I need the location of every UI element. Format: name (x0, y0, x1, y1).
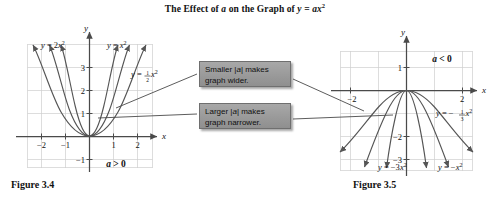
callout-larger-a: Larger |a| makes graph narrower. (199, 103, 291, 129)
y-axis-label-right: y (400, 27, 405, 37)
leader-smaller-to-left (116, 74, 197, 108)
curve-y-neg-3x2-right-branch (407, 91, 427, 169)
figure-panel: The Effect of a on the Graph of y = ax2 (0, 0, 490, 198)
svg-text:2: 2 (81, 86, 85, 96)
svg-text:2: 2 (135, 140, 139, 150)
y-axis-label-left: y (83, 23, 88, 33)
x-axis-label-left: x (161, 131, 166, 141)
svg-text:2: 2 (460, 94, 464, 104)
svg-text:−2: −2 (393, 132, 402, 142)
region-label-a-positive: a > 0 (106, 159, 126, 169)
fraction-one-third-right: 1 3 (459, 109, 465, 123)
svg-text:−2: −2 (347, 94, 356, 104)
leader-larger-to-right (293, 115, 393, 119)
curve-label-y-2x2: y = 2x2 (40, 40, 65, 50)
svg-text:−2: −2 (37, 140, 46, 150)
callout-smaller-line1-pre: Smaller | (205, 65, 236, 74)
leader-larger-to-left (98, 114, 197, 118)
svg-text:2: 2 (146, 77, 149, 83)
figure-caption-left: Figure 3.4 (11, 179, 54, 190)
curve-y-neg-x2-right-branch (407, 91, 449, 168)
svg-text:−1: −1 (76, 155, 85, 165)
svg-text:1: 1 (81, 109, 85, 119)
curve-label-y-half-x2: y = (130, 69, 142, 79)
curve-label-half-x2-suffix: x2 (150, 69, 158, 79)
x-axis-label-right: x (481, 85, 486, 95)
curve-label-y-neg-third-x2: y = − (435, 108, 454, 118)
callout-smaller-a: Smaller |a| makes graph wider. (199, 61, 291, 87)
curve-label-y-neg-x2: y = −x2 (437, 162, 462, 172)
svg-text:3: 3 (461, 116, 464, 122)
x-tick-labels-left: −2 −1 1 2 (37, 140, 140, 150)
callout-larger-line2: graph narrower. (205, 118, 285, 129)
region-label-a-negative: a < 0 (432, 54, 452, 64)
callout-larger-line1-pre: Larger | (205, 107, 232, 116)
callout-smaller-line2: graph wider. (205, 76, 285, 87)
svg-text:−1: −1 (61, 140, 70, 150)
curve-label-neg-third-suffix: x2 (465, 108, 473, 118)
svg-text:1: 1 (146, 70, 149, 76)
figures-canvas: x y −2 −1 1 2 3 2 1 −1 y = 2x2 (0, 0, 490, 198)
svg-text:3: 3 (81, 63, 85, 73)
figure-3-5-graph: x y −2 2 1 −2 −3 a < 0 y = − (331, 27, 486, 176)
svg-text:1: 1 (461, 109, 464, 115)
callout-smaller-line1-post: | makes (241, 65, 269, 74)
figure-caption-right: Figure 3.5 (353, 179, 396, 190)
svg-text:1: 1 (398, 63, 402, 73)
figure-3-4-graph: x y −2 −1 1 2 3 2 1 −1 y = 2x2 (16, 23, 166, 172)
curve-label-y-x2: y = x2 (106, 40, 127, 50)
callout-larger-line1-post: | makes (237, 107, 265, 116)
fraction-one-half-left: 1 2 (145, 70, 151, 84)
x-tick-labels-right: −2 2 (347, 94, 464, 104)
curve-label-y-neg-3x2: y = −3x2 (377, 162, 407, 172)
curve-labels-left: y = 2x2 y = x2 y = 1 2 x2 (40, 40, 158, 83)
svg-text:1: 1 (111, 140, 115, 150)
